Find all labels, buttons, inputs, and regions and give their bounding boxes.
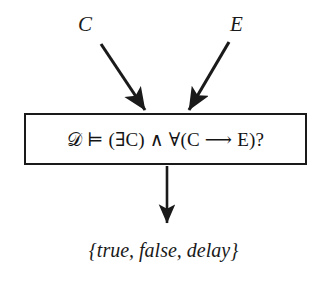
arrow-c-to-box [101, 44, 145, 110]
input-label-e: E [230, 14, 243, 35]
input-label-c: C [78, 14, 92, 35]
output-result-set: {true, false, delay} [0, 240, 327, 260]
query-formula: 𝒟 ⊨ (∃C) ∧ ∀(C ⟶ E)? [67, 130, 264, 149]
arrow-e-to-box [189, 42, 229, 110]
query-box: 𝒟 ⊨ (∃C) ∧ ∀(C ⟶ E)? [24, 113, 307, 165]
diagram-canvas: C E 𝒟 ⊨ (∃C) ∧ ∀(C ⟶ E)? {true, false, d… [0, 0, 327, 281]
